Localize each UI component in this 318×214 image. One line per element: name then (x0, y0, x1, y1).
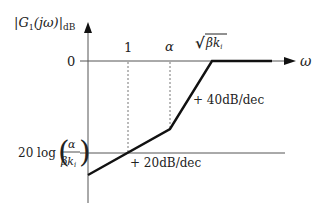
x-marker-alpha: α (165, 39, 174, 54)
low-tick-prefix: 20 log (18, 146, 56, 160)
right-paren: ) (79, 134, 91, 169)
fraction-numerator: α (68, 138, 76, 151)
y-tick-zero: 0 (67, 54, 75, 69)
y-tick-low: 20 log ( α βki ) (18, 134, 91, 169)
slope-label-20: + 20dB/dec (130, 156, 201, 170)
x-axis-arrow-icon (284, 57, 296, 65)
bode-diagram: |G1(jω)|dB ω 0 20 log ( α βki ) 1 α √ βk… (0, 0, 318, 214)
fraction-denominator: βki (60, 155, 76, 169)
sqrt-body: βki (205, 36, 222, 51)
y-axis-label: |G1(jω)|dB (14, 15, 76, 32)
x-marker-sqrt: √ βki (195, 34, 227, 52)
x-marker-one: 1 (124, 40, 132, 55)
slope-label-40: + 40dB/dec (193, 93, 264, 107)
x-axis-label: ω (300, 53, 312, 69)
sqrt-icon: √ (195, 34, 205, 52)
y-axis-arrow-icon (84, 22, 92, 33)
